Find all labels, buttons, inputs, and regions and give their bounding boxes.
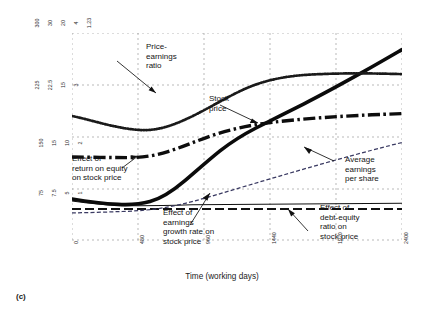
y-tick-label: 30: [47, 17, 53, 30]
x-axis-label: Time (working days): [0, 272, 444, 281]
series-effect-return-on-equity: [72, 114, 402, 158]
y-tick-label: 20: [60, 17, 66, 30]
annotation-average-earnings-per-share: Average earnings per share: [345, 155, 379, 184]
x-tick-label: 1440: [271, 232, 277, 244]
y-tick-label: 4: [73, 17, 79, 30]
y-tick-label: 75: [38, 187, 44, 200]
chart-figure: DEBT=1,EGR5P=2,EPSEGP=3 300302041.23 225…: [0, 0, 444, 312]
figure-caption: (c): [16, 292, 26, 301]
x-tick-label: 2400: [403, 232, 409, 244]
y-tick-label: 150: [38, 137, 44, 150]
y-tick-label: 300: [34, 17, 40, 30]
y-tick-label: 22.5: [47, 79, 53, 92]
annotation-effect-return-on-equity: Effect of return on equity on stock pric…: [72, 154, 128, 183]
y-tick-label: 7.5: [51, 187, 57, 200]
series-price-earnings-ratio: [72, 73, 402, 130]
x-tick-label: 0: [73, 241, 79, 244]
y-tick-label: 5: [64, 187, 70, 200]
annotation-effect-debt-equity-ratio: Effect of debt-equity ratio on stock pri…: [320, 203, 360, 241]
y-tick-label: 225: [34, 79, 40, 92]
annotation-effect-earnings-growth-rate: Effect of earnings growth rate on stock …: [163, 208, 214, 246]
annotation-price-earnings-ratio: Price- earnings ratio: [146, 42, 177, 71]
x-tick-label: 480: [139, 235, 145, 244]
y-tick-label: 15: [60, 79, 66, 92]
annotation-stock-price: Stock price: [209, 94, 229, 113]
y-tick-label: 15: [51, 137, 57, 150]
y-tick-label: 10: [64, 137, 70, 150]
y-tick-label: 1.23: [86, 17, 92, 30]
y-tick-group-1: 300302041.23: [30, 8, 95, 26]
